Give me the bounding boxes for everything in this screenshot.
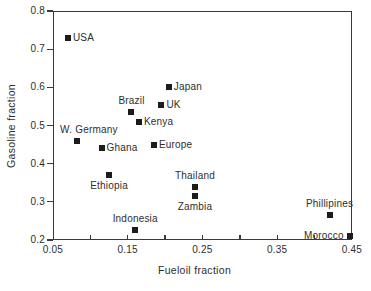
point-label-europe: Europe	[159, 139, 192, 151]
point-label-kenya: Kenya	[144, 116, 173, 128]
y-tick-label-0.8: 0.8	[15, 5, 45, 17]
data-point-ghana	[99, 145, 105, 151]
point-label-uk: UK	[166, 99, 180, 111]
data-point-phillipines	[327, 212, 333, 218]
point-label-w-germany: W. Germany	[60, 124, 118, 136]
x-tick-mark-0.2	[164, 235, 165, 240]
x-tick-mark-0.1	[90, 235, 91, 240]
data-point-thailand	[192, 184, 198, 190]
data-point-usa	[65, 35, 71, 41]
y-tick-mark-0.7	[47, 49, 53, 50]
x-tick-label-0.45: 0.45	[335, 244, 369, 256]
data-point-w-germany	[74, 138, 80, 144]
x-tick-mark-0.25	[202, 235, 203, 240]
data-point-japan	[166, 84, 172, 90]
point-label-japan: Japan	[174, 81, 202, 93]
data-point-brazil	[128, 109, 134, 115]
y-tick-label-0.3: 0.3	[15, 196, 45, 208]
x-tick-mark-0.15	[127, 235, 128, 240]
x-axis-title: Fueloil fraction	[45, 264, 344, 276]
data-point-uk	[158, 102, 164, 108]
point-label-zambia: Zambia	[178, 201, 213, 213]
point-label-morocco: Morocco	[304, 230, 344, 242]
point-label-usa: USA	[73, 32, 94, 44]
x-tick-label-0.05: 0.05	[36, 244, 70, 256]
x-tick-label-0.35: 0.35	[260, 244, 294, 256]
scatter-plot-figure: Gasoline fraction 0.20.30.40.50.60.70.80…	[0, 0, 371, 291]
x-tick-mark-0.35	[277, 235, 278, 240]
data-point-europe	[151, 142, 157, 148]
x-tick-mark-0.3	[239, 235, 240, 240]
y-tick-label-0.4: 0.4	[15, 158, 45, 170]
x-tick-label-0.25: 0.25	[186, 244, 220, 256]
y-tick-label-0.7: 0.7	[15, 43, 45, 55]
data-point-zambia	[192, 193, 198, 199]
y-tick-mark-0.4	[47, 163, 53, 164]
data-point-indonesia	[132, 227, 138, 233]
data-point-ethiopia	[106, 172, 112, 178]
y-tick-mark-0.5	[47, 125, 53, 126]
x-tick-label-0.15: 0.15	[111, 244, 145, 256]
point-label-indonesia: Indonesia	[113, 213, 158, 225]
point-label-ethiopia: Ethiopia	[90, 180, 128, 192]
y-tick-mark-0.6	[47, 87, 53, 88]
y-tick-mark-0.3	[47, 201, 53, 202]
y-tick-label-0.6: 0.6	[15, 81, 45, 93]
y-tick-label-0.5: 0.5	[15, 120, 45, 132]
point-label-phillipines: Phillipines	[306, 198, 353, 210]
data-point-kenya	[136, 119, 142, 125]
y-tick-mark-0.2	[47, 239, 53, 240]
point-label-thailand: Thailand	[175, 170, 215, 182]
point-label-ghana: Ghana	[107, 142, 138, 154]
data-point-morocco	[347, 233, 353, 239]
y-tick-mark-0.8	[47, 10, 53, 11]
point-label-brazil: Brazil	[118, 95, 144, 107]
